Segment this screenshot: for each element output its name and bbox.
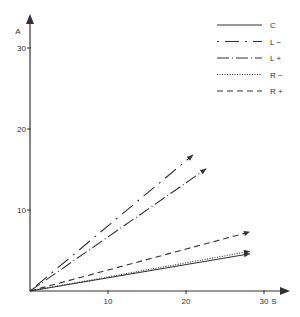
x-tick-label: 20: [182, 297, 191, 306]
line-chart: AS102030102030 CL −L +R −R +: [0, 0, 300, 317]
axes: AS102030102030: [15, 14, 290, 306]
legend-label: R +: [270, 87, 283, 96]
y-axis-label: A: [15, 27, 21, 36]
y-axis-arrow-icon: [26, 14, 34, 24]
series-line-2: [30, 155, 193, 291]
legend-label: L −: [270, 38, 281, 47]
x-axis-label: S: [271, 297, 276, 306]
y-tick-label: 30: [17, 44, 26, 53]
y-tick-label: 10: [17, 206, 26, 215]
arrowhead-icon: [200, 169, 206, 175]
x-tick-label: 10: [104, 297, 113, 306]
legend-label: L +: [270, 54, 281, 63]
series-line-3: [30, 169, 206, 291]
legend-label: R −: [270, 71, 283, 80]
x-tick-label: 30: [260, 297, 269, 306]
y-tick-label: 20: [17, 125, 26, 134]
arrowhead-icon: [243, 231, 249, 236]
series-lines: [30, 155, 250, 291]
legend-label: C: [270, 21, 276, 30]
legend: CL −L +R −R +: [217, 21, 283, 96]
series-line-5: [30, 232, 250, 291]
x-axis-arrow-icon: [280, 287, 290, 295]
